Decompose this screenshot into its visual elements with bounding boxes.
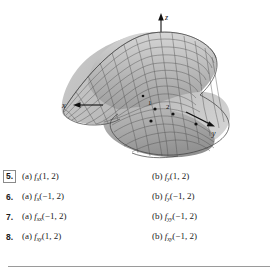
x-axis-label: x <box>61 101 66 110</box>
function-symbol: fxy <box>34 231 42 241</box>
part-label-a: (a) <box>22 231 32 241</box>
exercise-6-part-b: (b) fy(−1, 2) <box>152 191 194 201</box>
exercise-row-8: 8. (a) fxy(1, 2) (b) fxy(−1, 2) <box>0 230 278 250</box>
function-symbol: fxx <box>34 211 42 221</box>
function-arguments: (−1, 2) <box>172 211 197 221</box>
saddle-surface <box>62 32 230 158</box>
function-subscript: xx <box>37 215 42 222</box>
part-label-b: (b) <box>152 231 163 241</box>
exercise-row-5: 5. (a) fx(1, 2) (b) fy(1, 2) <box>0 170 278 190</box>
function-subscript: y <box>167 175 170 182</box>
marked-point <box>171 112 174 115</box>
part-label-a: (a) <box>22 191 32 201</box>
tick-label-1: 1 <box>148 99 152 107</box>
document-page: — — — <box>0 0 278 277</box>
marked-point <box>194 122 197 125</box>
marked-point <box>142 95 145 98</box>
exercise-number-7: 7. <box>6 212 13 222</box>
marked-point <box>153 107 156 110</box>
part-label-b: (b) <box>152 211 163 221</box>
section-divider-rule <box>8 266 270 267</box>
part-label-a: (a) <box>22 211 32 221</box>
function-arguments: (−1, 2) <box>172 231 197 241</box>
function-arguments: (−1, 2) <box>39 191 64 201</box>
function-arguments: (−1, 2) <box>42 211 67 221</box>
surface-plot-figure: z <box>0 8 278 168</box>
function-subscript: yy <box>167 215 172 222</box>
exercise-number-6: 6. <box>6 192 13 202</box>
function-arguments: (1, 2) <box>39 171 59 181</box>
function-subscript: x <box>37 175 40 182</box>
clipped-text-fragment-1: — <box>2 0 9 3</box>
marked-point <box>149 119 152 122</box>
tick-label-2: 2 <box>166 103 170 111</box>
exercise-8-part-a: (a) fxy(1, 2) <box>22 231 61 241</box>
surface-plot-svg: z <box>0 8 278 168</box>
part-label-a: (a) <box>22 171 32 181</box>
function-subscript: xy <box>167 235 172 242</box>
function-subscript: y <box>167 195 170 202</box>
exercise-list: 5. (a) fx(1, 2) (b) fy(1, 2) 6. (a) fx(−… <box>0 170 278 250</box>
exercise-6-part-a: (a) fx(−1, 2) <box>22 191 64 201</box>
y-axis-label: y <box>211 129 216 138</box>
exercise-row-7: 7. (a) fxx(−1, 2) (b) fyy(−1, 2) <box>0 210 278 230</box>
exercise-8-part-b: (b) fxy(−1, 2) <box>152 231 197 241</box>
function-arguments: (1, 2) <box>170 171 190 181</box>
clipped-text-fragment-3: — <box>62 0 69 3</box>
part-label-b: (b) <box>152 191 163 201</box>
part-label-b: (b) <box>152 171 163 181</box>
z-axis-label: z <box>164 13 169 22</box>
clipped-text-strip: — — — <box>0 0 278 7</box>
exercise-number-5[interactable]: 5. <box>3 170 16 183</box>
exercise-number-8: 8. <box>6 232 13 242</box>
function-subscript: xy <box>37 235 42 242</box>
function-arguments: (1, 2) <box>42 231 62 241</box>
exercise-5-part-b: (b) fy(1, 2) <box>152 171 189 181</box>
exercise-row-6: 6. (a) fx(−1, 2) (b) fy(−1, 2) <box>0 190 278 210</box>
function-subscript: x <box>37 195 40 202</box>
exercise-5-part-a: (a) fx(1, 2) <box>22 171 59 181</box>
clipped-text-fragment-2: — <box>44 0 51 3</box>
function-arguments: (−1, 2) <box>170 191 195 201</box>
exercise-7-part-a: (a) fxx(−1, 2) <box>22 211 66 221</box>
exercise-7-part-b: (b) fyy(−1, 2) <box>152 211 197 221</box>
